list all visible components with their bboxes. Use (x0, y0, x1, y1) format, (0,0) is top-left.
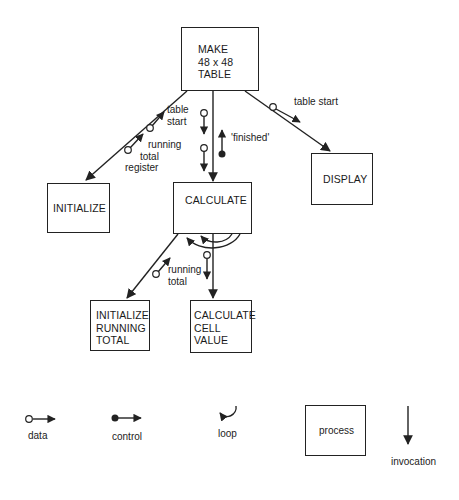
initialize-label: INITIALIZE (53, 202, 106, 215)
legend-control-label: control (112, 431, 142, 443)
process-calculate: CALCULATE (173, 182, 252, 234)
label-running-total-register: running total register (125, 139, 181, 174)
irt-line-2: RUNNING (96, 322, 149, 335)
legend-data-label: data (28, 430, 47, 442)
irt-line-1: INITIALIZE (96, 309, 149, 322)
irt-line-3: TOTAL (96, 334, 149, 347)
legend-process-box: process (305, 405, 366, 456)
make-line-1: MAKE (198, 43, 233, 56)
process-display: DISPLAY (311, 153, 373, 205)
make-line-2: 48 x 48 (198, 56, 233, 69)
legend-invocation-label: invocation (391, 456, 436, 468)
process-initialize: INITIALIZE (47, 183, 110, 233)
label-table-start-left: table start (167, 104, 189, 127)
make-line-3: TABLE (198, 68, 233, 81)
control-icon (112, 415, 119, 422)
label-table-start-right: table start (294, 96, 338, 108)
data-icon (26, 416, 33, 423)
legend-process-label: process (319, 425, 354, 437)
process-initialize-running-total: INITIALIZE RUNNING TOTAL (90, 300, 150, 351)
process-calculate-cell-value: CALCULATE CELL VALUE (190, 300, 252, 353)
process-make-table: MAKE 48 x 48 TABLE (181, 27, 259, 91)
display-label: DISPLAY (323, 173, 367, 186)
ccv-line-1: CALCULATE (194, 309, 256, 322)
ccv-line-2: CELL (194, 322, 256, 335)
loop-icon (220, 406, 236, 417)
calculate-label: CALCULATE (185, 194, 247, 207)
label-running-total-bottom: running total (168, 264, 201, 287)
label-finished: 'finished' (231, 132, 269, 144)
legend-loop-label: loop (218, 428, 237, 440)
ccv-line-3: VALUE (194, 334, 256, 347)
